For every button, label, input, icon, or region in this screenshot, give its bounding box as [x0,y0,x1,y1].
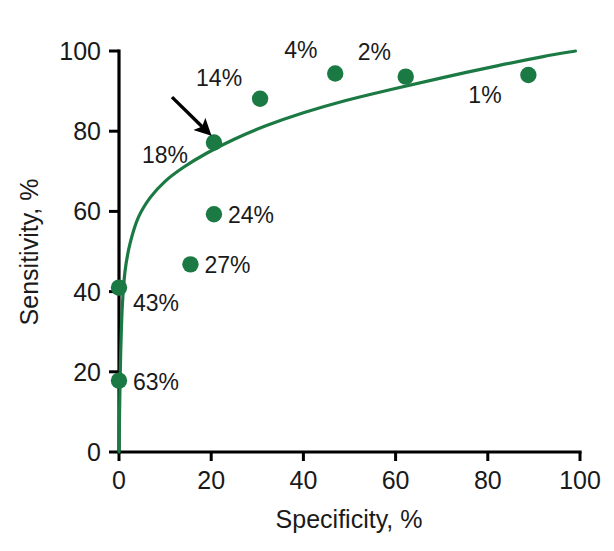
data-point-label: 43% [133,290,179,316]
pointer-arrow [172,97,205,129]
x-tick-label: 20 [197,466,225,494]
x-axis-title: Specificity, % [276,505,423,533]
y-tick-label: 0 [87,438,101,466]
roc-chart-figure: 020406080100 020406080100 63%43%27%24%18… [0,0,614,551]
data-point-label: 2% [358,39,391,65]
data-point [111,279,127,295]
data-point-label: 24% [228,202,274,228]
data-point [182,256,198,272]
data-point-label: 18% [142,142,188,168]
y-tick-label: 60 [73,197,101,225]
roc-plot-svg: 020406080100 020406080100 63%43%27%24%18… [0,0,614,551]
y-tick-label: 20 [73,358,101,386]
data-point-group [111,65,537,389]
data-point-label: 14% [196,65,242,91]
data-point [520,67,536,83]
y-axis-title: Sensitivity, % [15,179,43,326]
data-point-label: 4% [284,37,317,63]
x-tick-label: 0 [112,466,126,494]
x-tick-label: 60 [382,466,410,494]
data-point-label: 27% [204,252,250,278]
data-point [111,372,127,388]
data-point [398,68,414,84]
x-axis-tick-labels: 020406080100 [112,466,601,494]
data-point-label-group: 63%43%27%24%18%14%4%2%1% [133,37,502,394]
data-point [206,134,222,150]
y-tick-label: 80 [73,117,101,145]
data-point [252,91,268,107]
x-tick-label: 100 [559,466,601,494]
y-tick-label: 100 [59,37,101,65]
x-tick-label: 80 [474,466,502,494]
y-axis-tick-labels: 020406080100 [59,37,101,466]
annotation-arrow-group [172,97,205,129]
data-point [206,206,222,222]
data-point [327,65,343,81]
x-tick-label: 40 [289,466,317,494]
data-point-label: 1% [468,82,501,108]
data-point-label: 63% [133,369,179,395]
y-tick-label: 40 [73,278,101,306]
